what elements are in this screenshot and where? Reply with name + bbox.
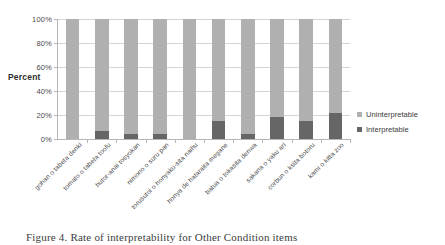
- bar-stack: [329, 19, 342, 139]
- bar-segment-interpretable: [299, 121, 312, 139]
- legend-swatch-uninterpretable-icon: [357, 112, 362, 117]
- bar-segment-uninterpretable: [95, 19, 108, 131]
- plot-area: 0%20%40%60%80%100%: [57, 19, 350, 140]
- y-axis-tick-label: 0%: [41, 135, 52, 144]
- bar-stack: [299, 19, 312, 139]
- x-axis-category-labels: gohan o tabeta denkitomato o tabeta toof…: [57, 141, 349, 213]
- bar-segment-interpretable: [95, 131, 108, 139]
- legend-label-interpretable: Interpretable: [366, 125, 409, 134]
- chart-legend: Uninterpretable Interpretable: [357, 110, 418, 140]
- bar-segment-uninterpretable: [241, 19, 254, 134]
- bar-stack: [241, 19, 254, 139]
- legend-item-uninterpretable: Uninterpretable: [357, 110, 418, 119]
- x-axis-category-label: batua o tokasita denwa: [203, 141, 257, 195]
- bar-segment-uninterpretable: [183, 19, 196, 139]
- bar-segment-interpretable: [124, 134, 137, 139]
- bar-segment-uninterpretable: [153, 19, 166, 134]
- y-axis-tick-label: 80%: [36, 39, 52, 48]
- y-axis-tick-label: 20%: [36, 111, 52, 120]
- y-axis-tick: [54, 139, 58, 140]
- bar-segment-uninterpretable: [212, 19, 225, 121]
- bar-stack: [212, 19, 225, 139]
- bar-stack: [153, 19, 166, 139]
- bar-segment-interpretable: [329, 113, 342, 139]
- bar-segment-interpretable: [212, 121, 225, 139]
- bar-segment-uninterpretable: [329, 19, 342, 113]
- bar-stack: [124, 19, 137, 139]
- bar-segment-interpretable: [241, 134, 254, 139]
- bar-stack: [95, 19, 108, 139]
- bar-segment-interpretable: [153, 134, 166, 139]
- bar-segment-uninterpretable: [124, 19, 137, 134]
- bars-group: [58, 19, 350, 139]
- bar-stack: [66, 19, 79, 139]
- bar-segment-uninterpretable: [66, 19, 79, 139]
- figure-caption: Figure 4. Rate of interpretability for O…: [26, 231, 297, 243]
- y-axis-title: Percent: [8, 72, 41, 82]
- y-axis-tick-label: 40%: [36, 87, 52, 96]
- bar-stack: [270, 19, 283, 139]
- legend-swatch-interpretable-icon: [357, 127, 362, 132]
- figure-container: Percent 0%20%40%60%80%100% gohan o tabet…: [0, 0, 445, 245]
- legend-label-uninterpretable: Uninterpretable: [366, 110, 418, 119]
- y-axis-tick-label: 100%: [32, 15, 52, 24]
- bar-stack: [183, 19, 196, 139]
- x-axis-category-label: honya de hataraita megane: [165, 141, 228, 204]
- bar-segment-interpretable: [270, 117, 283, 139]
- legend-item-interpretable: Interpretable: [357, 125, 418, 134]
- y-axis-tick-label: 60%: [36, 63, 52, 72]
- bar-segment-uninterpretable: [299, 19, 312, 121]
- x-axis-tick: [350, 139, 351, 143]
- bar-segment-uninterpretable: [270, 19, 283, 117]
- x-axis-category-label: gohan o tabeta denki: [33, 141, 83, 191]
